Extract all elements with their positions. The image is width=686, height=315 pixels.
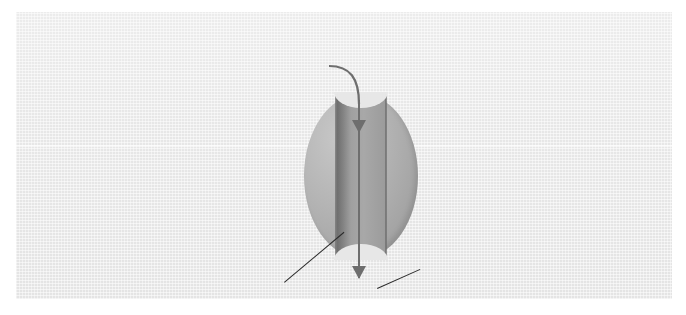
diagram-panel — [16, 12, 672, 299]
leader-line-solute — [377, 269, 421, 289]
transport-arrow-head-lower — [352, 266, 366, 279]
pore-edge-right — [385, 94, 387, 258]
entry-curve-arrow-icon — [316, 58, 376, 110]
transport-arrow-head-upper — [352, 120, 366, 133]
channel-protein-shape — [304, 94, 418, 258]
figure-canvas — [0, 0, 686, 315]
pore-edge-left — [335, 94, 337, 258]
